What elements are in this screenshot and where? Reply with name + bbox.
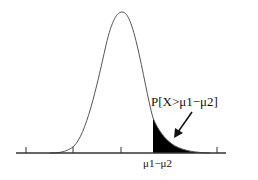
arrow-head-icon [174,128,183,138]
bell-curve [50,12,210,153]
axis-point-label: μ1−μ2 [143,157,172,169]
distribution-diagram [0,0,258,180]
arrow-line [178,112,192,132]
probability-annotation: P[X>μ1−μ2] [151,94,218,110]
